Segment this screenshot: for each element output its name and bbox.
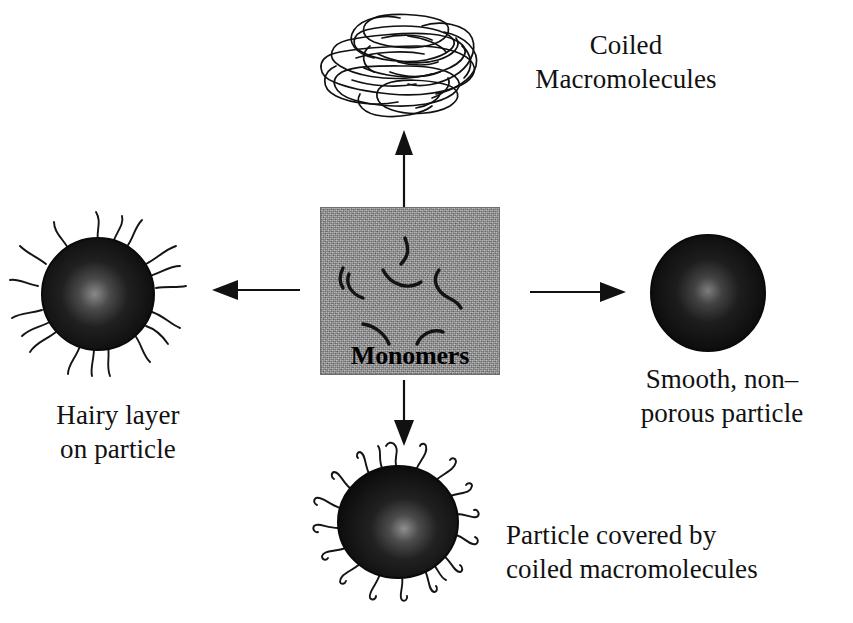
label-hairy-layer-on-particle: Hairy layer on particle <box>12 398 224 466</box>
diagram-canvas: Coiled Macromolecules Mono <box>0 0 853 623</box>
smooth-nonporous-particle-graphic <box>648 232 768 354</box>
covered-particle-graphic <box>312 438 482 604</box>
label-coiled-macromolecules: Coiled Macromolecules <box>500 28 752 96</box>
monomers-label: Monomers <box>321 342 499 370</box>
monomers-box: Monomers <box>320 207 500 375</box>
coiled-macromolecules-graphic <box>312 10 512 122</box>
arrow-left-to-hairy-particle <box>208 268 300 312</box>
label-particle-covered-by-coiled-macromolecules: Particle covered by coiled macromolecule… <box>506 518 846 586</box>
arrow-right-to-smooth-particle <box>530 270 630 314</box>
hairy-layer-particle-graphic <box>10 208 186 376</box>
arrow-up-to-coiled-macromolecules <box>380 128 428 212</box>
label-smooth-nonporous-particle: Smooth, non– porous particle <box>608 362 836 430</box>
